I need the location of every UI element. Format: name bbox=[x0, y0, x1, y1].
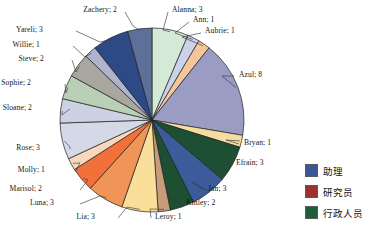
legend-item-2[interactable]: 行政人员 bbox=[305, 202, 367, 223]
slice-label-kinley: Kinley; 2 bbox=[186, 199, 215, 207]
slice-label-sophie: Sophie; 2 bbox=[1, 79, 31, 87]
legend-item-0[interactable]: 助理 bbox=[305, 160, 367, 181]
slice-label-azul: Azul; 8 bbox=[239, 71, 262, 79]
legend-label-1: 研究员 bbox=[323, 185, 353, 199]
leader-line-zachery bbox=[125, 12, 140, 31]
pie-chart-figure: Alanna; 3Ann; 1Aubrie; 1Azul; 8Bryan; 1E… bbox=[0, 0, 369, 236]
slice-label-rose: Rose; 3 bbox=[16, 144, 40, 152]
legend-label-2: 行政人员 bbox=[323, 206, 363, 220]
slice-label-aubrie: Aubrie; 1 bbox=[205, 27, 235, 35]
slice-label-luna: Luna; 3 bbox=[30, 199, 54, 207]
legend: 助理 研究员 行政人员 bbox=[305, 160, 367, 223]
slice-label-jan: Jan; 3 bbox=[208, 185, 227, 193]
slice-label-lia: Lia; 3 bbox=[76, 213, 95, 221]
slice-label-zachery: Zachery; 2 bbox=[83, 6, 117, 14]
slice-label-leroy: Leroy; 1 bbox=[155, 213, 182, 221]
legend-swatch-icon-0 bbox=[305, 164, 318, 177]
slice-label-marisol: Marisol; 2 bbox=[10, 185, 42, 193]
legend-swatch-icon-1 bbox=[305, 185, 318, 198]
legend-item-1[interactable]: 研究员 bbox=[305, 181, 367, 202]
slice-label-molly: Molly; 1 bbox=[18, 166, 45, 174]
slice-label-efrain: Efrain; 3 bbox=[236, 159, 264, 167]
legend-label-0: 助理 bbox=[323, 164, 343, 178]
slice-label-steve: Steve; 2 bbox=[19, 55, 44, 63]
slice-label-bryan: Bryan; 1 bbox=[244, 139, 271, 147]
slice-label-yareli: Yareli; 3 bbox=[16, 26, 43, 34]
leader-line-yareli bbox=[76, 31, 111, 42]
legend-swatch-icon-2 bbox=[305, 206, 318, 219]
slice-label-alanna: Alanna; 3 bbox=[172, 6, 203, 14]
slice-label-willie: Willie; 1 bbox=[13, 41, 40, 49]
slice-label-ann: Ann; 1 bbox=[193, 16, 214, 24]
slice-label-sloane: Sloane; 2 bbox=[3, 104, 32, 112]
